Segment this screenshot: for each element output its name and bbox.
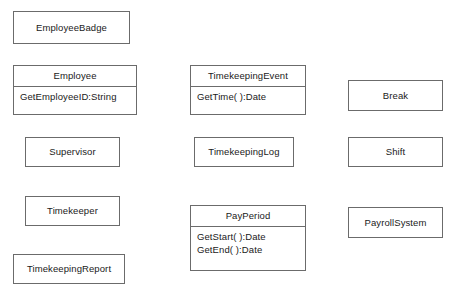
uml-class-supervisor[interactable]: Supervisor	[25, 137, 120, 167]
uml-class-name-supervisor: Supervisor	[26, 138, 119, 166]
uml-class-shift[interactable]: Shift	[348, 137, 443, 167]
uml-class-name-timekeeper: Timekeeper	[26, 197, 119, 225]
uml-class-timekeeping-log[interactable]: TimekeepingLog	[194, 137, 294, 167]
uml-class-name-timekeeping-event: TimekeepingEvent	[191, 66, 305, 87]
uml-class-name-break: Break	[349, 81, 442, 110]
uml-members-pay-period: GetStart( ):DateGetEnd( ):Date	[191, 227, 305, 270]
uml-class-pay-period[interactable]: PayPeriodGetStart( ):DateGetEnd( ):Date	[190, 205, 306, 271]
uml-member: GetStart( ):Date	[197, 231, 305, 244]
uml-class-employee[interactable]: EmployeeGetEmployeeID:String	[13, 65, 137, 115]
uml-class-timekeeping-event[interactable]: TimekeepingEventGetTime( ):Date	[190, 65, 306, 115]
uml-class-name-employee: Employee	[14, 66, 136, 87]
uml-class-employee-badge[interactable]: EmployeeBadge	[13, 11, 130, 44]
uml-class-name-employee-badge: EmployeeBadge	[14, 12, 129, 43]
uml-class-break[interactable]: Break	[348, 80, 443, 111]
uml-class-diagram-canvas: EmployeeBadgeEmployeeGetEmployeeID:Strin…	[0, 0, 453, 293]
uml-member: GetEmployeeID:String	[20, 91, 136, 104]
uml-class-name-shift: Shift	[349, 138, 442, 166]
uml-class-payroll-system[interactable]: PayrollSystem	[348, 207, 443, 238]
uml-members-employee: GetEmployeeID:String	[14, 87, 136, 114]
uml-class-name-payroll-system: PayrollSystem	[349, 208, 442, 237]
uml-class-timekeeper[interactable]: Timekeeper	[25, 196, 120, 226]
uml-members-timekeeping-event: GetTime( ):Date	[191, 87, 305, 114]
uml-class-timekeeping-report[interactable]: TimekeepingReport	[13, 254, 125, 284]
uml-member: GetTime( ):Date	[197, 91, 305, 104]
uml-class-name-timekeeping-log: TimekeepingLog	[195, 138, 293, 166]
uml-class-name-pay-period: PayPeriod	[191, 206, 305, 227]
uml-class-name-timekeeping-report: TimekeepingReport	[14, 255, 124, 283]
uml-member: GetEnd( ):Date	[197, 244, 305, 257]
